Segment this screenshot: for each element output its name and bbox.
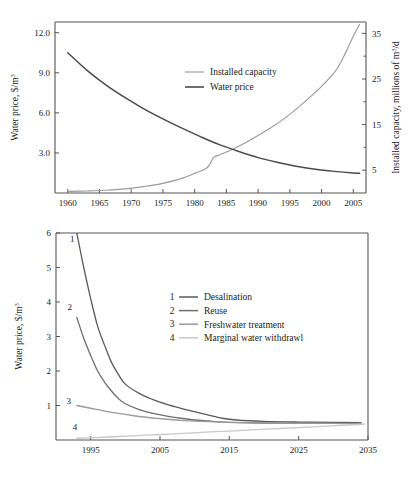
bottom-chart-curve-tag: 1 bbox=[70, 234, 75, 244]
bottom-chart-series-marginal-water-withdrawl bbox=[77, 424, 365, 438]
bottom-chart-ytick-label: 6 bbox=[47, 228, 52, 238]
top-chart-legend-label: Water price bbox=[210, 82, 254, 92]
bottom-chart-xtick-label: 2005 bbox=[151, 445, 170, 455]
top-chart-xtick-label: 1965 bbox=[90, 198, 109, 208]
bottom-chart-xtick-label: 2015 bbox=[220, 445, 239, 455]
top-chart-xtick-label: 1980 bbox=[186, 198, 205, 208]
top-chart-ylabel: Water price, $/m3 bbox=[9, 74, 20, 141]
top-chart-y2tick-label: 15 bbox=[372, 120, 382, 130]
bottom-chart-xtick-label: 2025 bbox=[290, 445, 309, 455]
top-chart-xtick-label: 1990 bbox=[249, 198, 268, 208]
top-chart-ytick-label: 9.0 bbox=[39, 68, 51, 78]
bottom-chart-legend-tag: 4 bbox=[170, 333, 175, 343]
bottom-chart-legend-label: Freshwater treatment bbox=[204, 320, 285, 330]
bottom-chart-legend-tag: 1 bbox=[170, 292, 175, 302]
bottom-chart-ytick-label: 2 bbox=[47, 366, 52, 376]
bottom-chart-ylabel: Water price, $/m3 bbox=[13, 303, 24, 370]
top-chart-legend-label: Installed capacity bbox=[210, 67, 277, 77]
top-chart-ytick-label: 12.0 bbox=[34, 28, 50, 38]
bottom-chart-series-freshwater-treatment bbox=[77, 406, 361, 424]
bottom-chart-legend-label: Desalination bbox=[204, 292, 252, 302]
bottom-chart-ytick-label: 5 bbox=[47, 263, 52, 273]
top-chart-y2tick-label: 25 bbox=[372, 74, 382, 84]
bottom-chart-ytick-label: 3 bbox=[47, 332, 52, 342]
top-chart-y2tick-label: 5 bbox=[372, 165, 377, 175]
bottom-chart-xtick-label: 1995 bbox=[82, 445, 101, 455]
bottom-chart-legend-tag: 3 bbox=[170, 319, 175, 329]
bottom-chart-xtick-label: 2035 bbox=[359, 445, 378, 455]
figure-svg: 1960196519701975198019851990199520002005… bbox=[0, 0, 419, 480]
top-chart-xtick-label: 1995 bbox=[281, 198, 300, 208]
bottom-chart-legend-label: Reuse bbox=[204, 306, 227, 316]
top-chart-y2tick-label: 35 bbox=[372, 29, 382, 39]
bottom-chart-ytick-label: 1 bbox=[47, 401, 52, 411]
top-chart-xtick-label: 1960 bbox=[59, 198, 78, 208]
bottom-chart-legend-label: Marginal water withdrawl bbox=[204, 333, 303, 343]
top-chart-xtick-label: 2005 bbox=[344, 198, 363, 208]
top-chart-ytick-label: 3.0 bbox=[39, 148, 51, 158]
top-chart-series-installed-capacity bbox=[68, 24, 360, 191]
bottom-chart-curve-tag: 2 bbox=[68, 302, 73, 312]
top-chart-y2label: Installed capacity, millions of m3/d bbox=[390, 41, 401, 174]
top-chart-ytick-label: 6.0 bbox=[39, 108, 51, 118]
figure-container: 1960196519701975198019851990199520002005… bbox=[0, 0, 419, 480]
top-chart-xtick-label: 1970 bbox=[122, 198, 141, 208]
top-chart: 1960196519701975198019851990199520002005… bbox=[9, 22, 401, 208]
bottom-chart-legend-tag: 2 bbox=[170, 306, 175, 316]
bottom-chart-curve-tag: 3 bbox=[66, 396, 71, 406]
bottom-chart-curve-tag: 4 bbox=[73, 422, 78, 432]
top-chart-xtick-label: 1985 bbox=[217, 198, 236, 208]
bottom-chart: 19952005201520252035123456Water price, $… bbox=[13, 228, 378, 455]
bottom-chart-ytick-label: 4 bbox=[47, 297, 52, 307]
top-chart-xtick-label: 2000 bbox=[313, 198, 332, 208]
top-chart-xtick-label: 1975 bbox=[154, 198, 173, 208]
